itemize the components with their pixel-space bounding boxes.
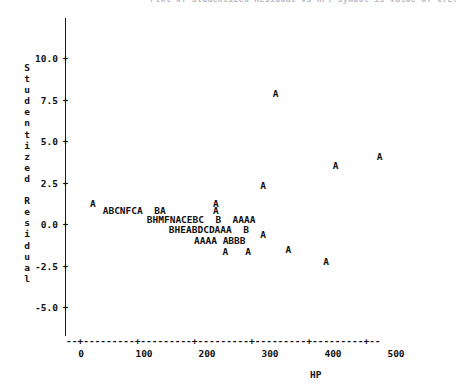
data-point: A <box>260 181 266 190</box>
y-tick-mark: + <box>62 55 69 62</box>
y-tick-mark: + <box>62 180 69 187</box>
y-axis-title-char: u <box>22 251 32 262</box>
x-tick-label: 500 <box>376 348 416 359</box>
data-point: A <box>333 161 339 170</box>
y-tick-mark: + <box>62 304 69 311</box>
data-point: A <box>260 230 266 239</box>
y-tick-label: 0.0 <box>14 220 58 229</box>
x-axis-line: --+---------+---------+---------+-------… <box>66 336 397 345</box>
y-axis-title-char: e <box>22 106 32 117</box>
y-axis-title-char: z <box>22 151 32 162</box>
x-axis-title: HP <box>310 369 321 380</box>
data-point: A <box>377 152 383 161</box>
y-axis-line <box>65 18 66 336</box>
data-point-row: A A <box>222 247 251 256</box>
y-tick-label: 7.5 <box>14 96 58 105</box>
data-point-row: AAAA ABBB <box>194 236 245 245</box>
x-tick-label: 200 <box>187 348 227 359</box>
y-tick-label: 5.0 <box>14 137 58 146</box>
y-axis-title-char: i <box>22 228 32 239</box>
x-tick-label: 0 <box>61 348 101 359</box>
data-point-row: BHEABDCDAAA B <box>169 225 249 234</box>
y-tick-mark: + <box>62 97 69 104</box>
y-tick-mark: + <box>62 138 69 145</box>
y-axis-title-char: u <box>22 84 32 95</box>
chart-title: Plot of Studentized Residual vs HP. Symb… <box>150 0 458 4</box>
data-point: A <box>273 89 279 98</box>
y-axis-title-char: l <box>22 273 32 284</box>
y-axis-title-char: n <box>22 117 32 128</box>
x-tick-label: 400 <box>313 348 353 359</box>
y-tick-label: -5.0 <box>14 303 58 312</box>
x-tick-label: 100 <box>124 348 164 359</box>
x-tick-label: 300 <box>250 348 290 359</box>
data-point-row: BHMFNACEBC B AAAA <box>147 215 256 224</box>
y-axis-title-char: t <box>22 73 32 84</box>
y-axis-title-char: d <box>22 240 32 251</box>
data-point: A <box>323 257 329 266</box>
y-axis-title-char: e <box>22 206 32 217</box>
y-axis-title-char: R <box>22 195 32 206</box>
y-tick-mark: + <box>62 263 69 270</box>
y-tick-mark: + <box>62 221 69 228</box>
y-axis-title-char: S <box>22 62 32 73</box>
y-tick-label: 10.0 <box>14 54 58 63</box>
y-tick-label: 2.5 <box>14 179 58 188</box>
y-axis-title-char: e <box>22 162 32 173</box>
data-point: A <box>285 245 291 254</box>
data-point-row: A <box>90 199 96 208</box>
y-tick-label: -2.5 <box>14 262 58 271</box>
